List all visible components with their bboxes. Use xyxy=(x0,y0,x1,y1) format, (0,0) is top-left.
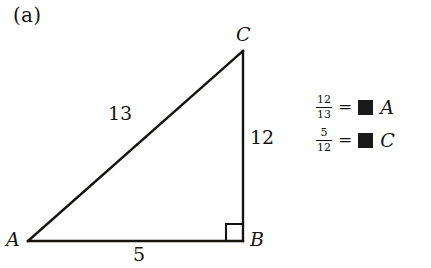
vertex-label-a: A xyxy=(6,230,20,249)
side-length-base: 5 xyxy=(133,245,145,264)
legend-vertex-label: C xyxy=(379,131,395,150)
vertex-label-c: C xyxy=(236,25,251,44)
fraction-denominator: 12 xyxy=(316,142,332,154)
geometry-figure: (a) A B C 13 12 5 12 13 = A 5 xyxy=(0,0,431,268)
fraction-5-12: 5 12 xyxy=(316,127,332,153)
triangle-side-hypotenuse xyxy=(28,51,243,241)
fraction-numerator: 12 xyxy=(316,94,332,106)
side-length-vertical-leg: 12 xyxy=(250,128,274,147)
legend-vertex-label: A xyxy=(379,98,394,117)
equals-sign: = xyxy=(338,98,352,116)
equals-sign: = xyxy=(338,131,352,149)
equation-legend: 12 13 = A 5 12 = C xyxy=(316,94,395,153)
equation-row: 12 13 = A xyxy=(316,94,395,120)
fraction-denominator: 13 xyxy=(316,109,332,121)
equation-row: 5 12 = C xyxy=(316,127,395,153)
fraction-numerator: 5 xyxy=(320,127,329,139)
side-length-hypotenuse: 13 xyxy=(108,104,132,123)
redaction-block xyxy=(358,133,373,148)
redaction-block xyxy=(358,100,373,115)
right-angle-marker xyxy=(226,224,243,241)
vertex-label-b: B xyxy=(250,230,264,249)
fraction-12-13: 12 13 xyxy=(316,94,332,120)
